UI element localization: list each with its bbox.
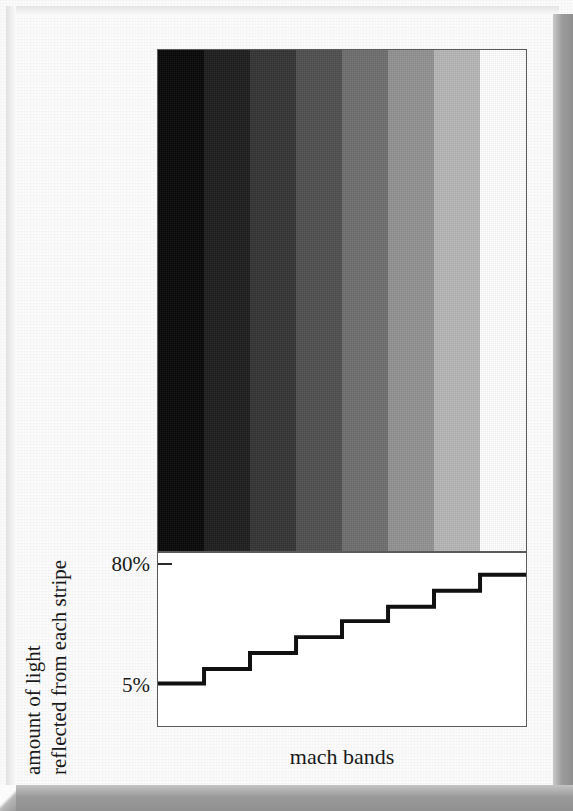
mach-band-stripe-7: [434, 50, 480, 551]
y-axis-title-line-1: amount of light: [23, 646, 44, 776]
mach-band-stripe-6: [388, 50, 434, 551]
luminance-step-graph-panel: [157, 552, 527, 727]
plate-bevel-corner: [0, 785, 16, 811]
plate-bevel-right-shadow: [553, 14, 573, 811]
mach-band-stripe-2: [204, 50, 250, 551]
step-plot-svg: [158, 553, 526, 726]
tick-mark-80-percent: [158, 563, 172, 565]
plate-frame-left-edge: [6, 6, 16, 786]
y-axis-title: amount of light reflected from each stri…: [18, 505, 90, 775]
mach-band-stripe-5: [342, 50, 388, 551]
mach-band-stripe-8: [480, 50, 526, 551]
mach-band-stripe-1: [158, 50, 204, 551]
mach-band-stripe-4: [296, 50, 342, 551]
y-axis-title-line-2: reflected from each stripe: [49, 560, 70, 775]
mach-band-stripe-3: [250, 50, 296, 551]
plate-bevel-bottom-shadow: [14, 785, 573, 811]
step-plot-line: [158, 575, 526, 684]
figure-plate: 80% 5% amount of light reflected from ea…: [0, 0, 573, 811]
plate-frame-top-edge: [6, 6, 559, 16]
x-axis-title: mach bands: [157, 744, 527, 770]
mach-bands-stripes-panel: [157, 49, 527, 552]
